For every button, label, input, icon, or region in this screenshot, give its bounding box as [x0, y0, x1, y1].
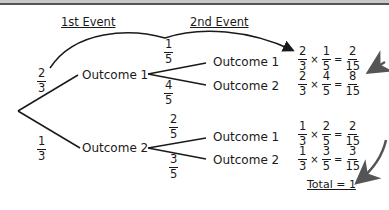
first-outcome2-label: Outcome 2 [82, 142, 148, 154]
second-o1-outcome2-label: Outcome 2 [213, 80, 279, 92]
prob-first-outcome1: 23 [37, 68, 46, 94]
prob-o1-o2: 45 [164, 80, 173, 106]
first-outcome1-label: Outcome 1 [82, 69, 148, 81]
prob-first-outcome2: 13 [37, 136, 46, 162]
branch-outcome1 [18, 75, 78, 111]
second-o1-outcome1-label: Outcome 1 [213, 56, 279, 68]
second-o2-outcome2-label: Outcome 2 [213, 154, 279, 166]
prob-o2-o1: 25 [169, 114, 178, 140]
total-label: Total = 1 [307, 178, 356, 191]
prob-o1-o1: 15 [164, 39, 173, 65]
branch-outcome2 [18, 111, 80, 148]
first-event-heading: 1st Event [61, 15, 115, 29]
second-o2-outcome1-label: Outcome 1 [213, 131, 279, 143]
calculation-row: 23 × 45 = 815 [298, 71, 360, 97]
calculation-row: 13 × 35 = 315 [298, 146, 360, 172]
prob-o2-o2: 35 [169, 154, 178, 180]
second-event-heading: 2nd Event [190, 15, 249, 29]
